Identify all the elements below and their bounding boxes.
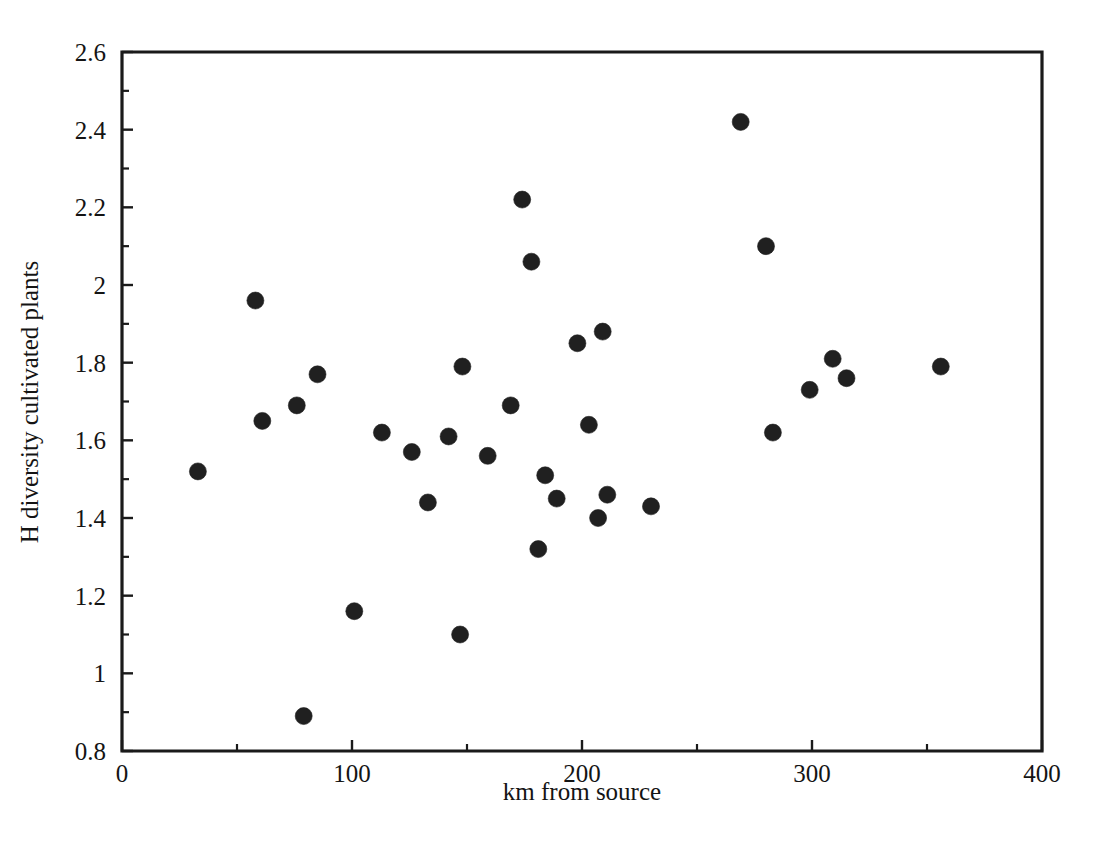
scatter-point bbox=[732, 113, 749, 130]
scatter-point bbox=[373, 424, 390, 441]
x-tick-label: 0 bbox=[116, 760, 129, 787]
scatter-points bbox=[189, 113, 949, 724]
y-tick-label: 1 bbox=[94, 660, 107, 687]
y-tick-label: 0.8 bbox=[75, 738, 106, 765]
scatter-point bbox=[932, 358, 949, 375]
y-tick-label: 2 bbox=[94, 272, 107, 299]
y-tick-label: 2.2 bbox=[75, 194, 106, 221]
scatter-point bbox=[758, 238, 775, 255]
scatter-point bbox=[247, 292, 264, 309]
scatter-point bbox=[514, 191, 531, 208]
scatter-point bbox=[346, 603, 363, 620]
scatter-point bbox=[764, 424, 781, 441]
scatter-point bbox=[548, 490, 565, 507]
y-tick-label: 1.6 bbox=[75, 427, 106, 454]
scatter-point bbox=[594, 323, 611, 340]
scatter-point bbox=[580, 416, 597, 433]
scatter-point bbox=[288, 397, 305, 414]
x-axis-title: km from source bbox=[503, 778, 661, 805]
scatter-plot-page: 0100200300400 0.811.21.41.61.822.22.42.6… bbox=[0, 0, 1096, 844]
scatter-point bbox=[530, 541, 547, 558]
scatter-point bbox=[309, 366, 326, 383]
axis-frame bbox=[122, 52, 1042, 751]
scatter-point bbox=[523, 253, 540, 270]
scatter-point bbox=[454, 358, 471, 375]
y-tick-label: 2.6 bbox=[75, 39, 106, 66]
scatter-point bbox=[569, 335, 586, 352]
scatter-point bbox=[254, 412, 271, 429]
scatter-point bbox=[502, 397, 519, 414]
scatter-point bbox=[838, 370, 855, 387]
scatter-point bbox=[295, 708, 312, 725]
x-tick-label: 100 bbox=[333, 760, 371, 787]
y-axis-title: H diversity cultivated plants bbox=[16, 261, 43, 544]
scatter-point bbox=[801, 381, 818, 398]
plot-axes bbox=[122, 52, 1042, 751]
x-tick-label: 300 bbox=[793, 760, 831, 787]
scatter-point bbox=[440, 428, 457, 445]
scatter-point bbox=[643, 498, 660, 515]
y-tick-label: 1.4 bbox=[75, 505, 107, 532]
scatter-point bbox=[403, 443, 420, 460]
y-tick-label: 1.8 bbox=[75, 350, 106, 377]
y-axis-ticks bbox=[122, 52, 133, 751]
y-axis-tick-labels: 0.811.21.41.61.822.22.42.6 bbox=[75, 39, 107, 765]
scatter-point bbox=[590, 510, 607, 527]
x-tick-label: 400 bbox=[1023, 760, 1061, 787]
scatter-point bbox=[419, 494, 436, 511]
scatter-point bbox=[452, 626, 469, 643]
scatter-point bbox=[824, 350, 841, 367]
y-tick-label: 1.2 bbox=[75, 583, 106, 610]
scatter-plot-figure: 0100200300400 0.811.21.41.61.822.22.42.6… bbox=[0, 0, 1096, 844]
scatter-point bbox=[479, 447, 496, 464]
y-tick-label: 2.4 bbox=[75, 117, 107, 144]
scatter-point bbox=[599, 486, 616, 503]
scatter-point bbox=[189, 463, 206, 480]
x-axis-ticks bbox=[122, 740, 1042, 751]
scatter-point bbox=[537, 467, 554, 484]
